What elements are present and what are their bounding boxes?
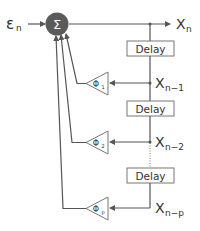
svg-text:ε: ε: [6, 15, 14, 33]
coefficient-gain-2: Φ 2: [86, 131, 108, 154]
svg-text:n−1: n−1: [165, 83, 184, 93]
summation-node: Σ: [46, 13, 69, 36]
svg-text:Φ: Φ: [93, 80, 99, 89]
delay-box-1: Delay: [127, 41, 174, 56]
svg-text:X: X: [176, 16, 186, 32]
svg-text:n−p: n−p: [165, 208, 184, 218]
svg-text:X: X: [155, 200, 165, 216]
svg-text:n: n: [16, 23, 22, 33]
svg-text:1: 1: [102, 84, 105, 90]
delay-box-3: Delay: [127, 168, 174, 183]
svg-text:2: 2: [102, 143, 105, 149]
svg-text:Φ: Φ: [93, 139, 99, 148]
svg-text:p: p: [102, 209, 105, 216]
tap-p: X n−p Φ p: [56, 36, 184, 220]
delay-box-2: Delay: [127, 101, 174, 116]
svg-text:Delay: Delay: [135, 170, 165, 182]
input-label: ε n: [6, 15, 22, 33]
ar-model-diagram: ε n Σ X n Delay Delay Delay X n−1 Φ: [0, 0, 200, 231]
svg-text:X: X: [155, 75, 165, 91]
svg-text:n−2: n−2: [165, 142, 184, 152]
coefficient-gain-p: Φ p: [86, 197, 108, 220]
svg-text:X: X: [155, 134, 165, 150]
coefficient-gain-1: Φ 1: [86, 72, 108, 95]
svg-text:Delay: Delay: [135, 103, 165, 115]
svg-text:Φ: Φ: [93, 205, 99, 214]
output-label: X n: [176, 16, 192, 34]
svg-text:Delay: Delay: [135, 43, 165, 55]
sigma-icon: Σ: [53, 17, 61, 32]
svg-text:n: n: [186, 24, 192, 34]
